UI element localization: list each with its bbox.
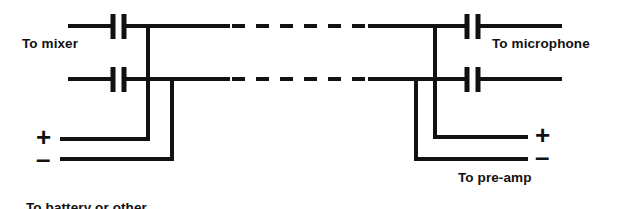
label-to-battery: To battery or other power supply — [26, 170, 147, 209]
circuit-diagram: To mixer To microphone To battery or oth… — [0, 0, 619, 209]
label-to-mixer: To mixer — [22, 36, 78, 51]
label-to-preamp: To pre-amp — [458, 170, 532, 185]
polarity-minus-left: – — [36, 146, 50, 172]
label-to-microphone: To microphone — [492, 36, 590, 51]
label-to-battery-line1: To battery or other — [26, 200, 147, 209]
polarity-minus-right: – — [535, 144, 549, 170]
